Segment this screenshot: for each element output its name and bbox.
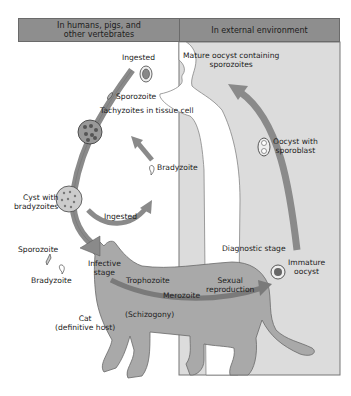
label-sexual-line1: Sexual <box>206 276 254 285</box>
label-cyst-bradyzoites: Cyst with bradyzoites <box>14 193 58 211</box>
label-immature-line1: Immature <box>288 258 325 267</box>
life-cycle-diagram: In humans, pigs, and other vertebrates I… <box>0 0 351 396</box>
label-infective-stage: Infective stage <box>88 259 121 277</box>
sporozoite-icon-left <box>46 254 51 265</box>
label-cyst-line1: Cyst with <box>14 193 58 202</box>
label-cat-line2: (definitive host) <box>55 323 115 332</box>
header-external-environment: In external environment <box>179 18 340 42</box>
label-ingested-mid: Ingested <box>104 212 137 221</box>
bradyzoite-to-tachyzoite-arrow <box>137 142 152 160</box>
label-mature-line2: sporozoites <box>183 60 279 69</box>
label-cyst-line2: bradyzoites <box>14 202 58 211</box>
header-vertebrates: In humans, pigs, and other vertebrates <box>18 18 180 42</box>
label-immature-oocyst: Immature oocyst <box>288 258 325 276</box>
label-mature-oocyst: Mature oocyst containing sporozoites <box>183 51 279 69</box>
label-mature-line1: Mature oocyst containing <box>183 51 279 60</box>
bradyzoite-icon-left <box>59 265 64 274</box>
label-immature-line2: oocyst <box>288 267 325 276</box>
label-trophozoite: Trophozoite <box>126 276 170 285</box>
label-oocyst-sporoblast-line2: sporoblast <box>273 146 318 155</box>
label-tachyzoites: Tachyzoites in tissue cell <box>100 106 194 115</box>
label-bradyzoite-mid: Bradyzoite <box>157 163 198 172</box>
label-infective-line1: Infective <box>88 259 121 268</box>
header-vertebrates-line1: In humans, pigs, and <box>57 21 141 30</box>
label-infective-line2: stage <box>88 268 121 277</box>
label-schizogony: (Schizogony) <box>125 310 174 319</box>
label-merozoite: Merozoite <box>163 291 200 300</box>
label-cat-line1: Cat <box>55 314 115 323</box>
label-sexual-reproduction: Sexual reproduction <box>206 276 254 294</box>
label-ingested-top: Ingested <box>122 53 155 62</box>
label-sexual-line2: reproduction <box>206 285 254 294</box>
label-bradyzoite-left: Bradyzoite <box>31 276 72 285</box>
label-diagnostic-stage: Diagnostic stage <box>222 244 286 253</box>
label-sporozoite-top: Sporozoite <box>116 92 156 101</box>
header-vertebrates-line2: other vertebrates <box>57 30 141 39</box>
label-oocyst-sporoblast: Oocyst with sporoblast <box>273 137 318 155</box>
label-oocyst-sporoblast-line1: Oocyst with <box>273 137 318 146</box>
label-cat-host: Cat (definitive host) <box>55 314 115 332</box>
label-sporozoite-left: Sporozoite <box>18 245 58 254</box>
bradyzoite-icon-mid <box>150 165 155 175</box>
tachyzoites-cell-icon <box>78 120 102 144</box>
